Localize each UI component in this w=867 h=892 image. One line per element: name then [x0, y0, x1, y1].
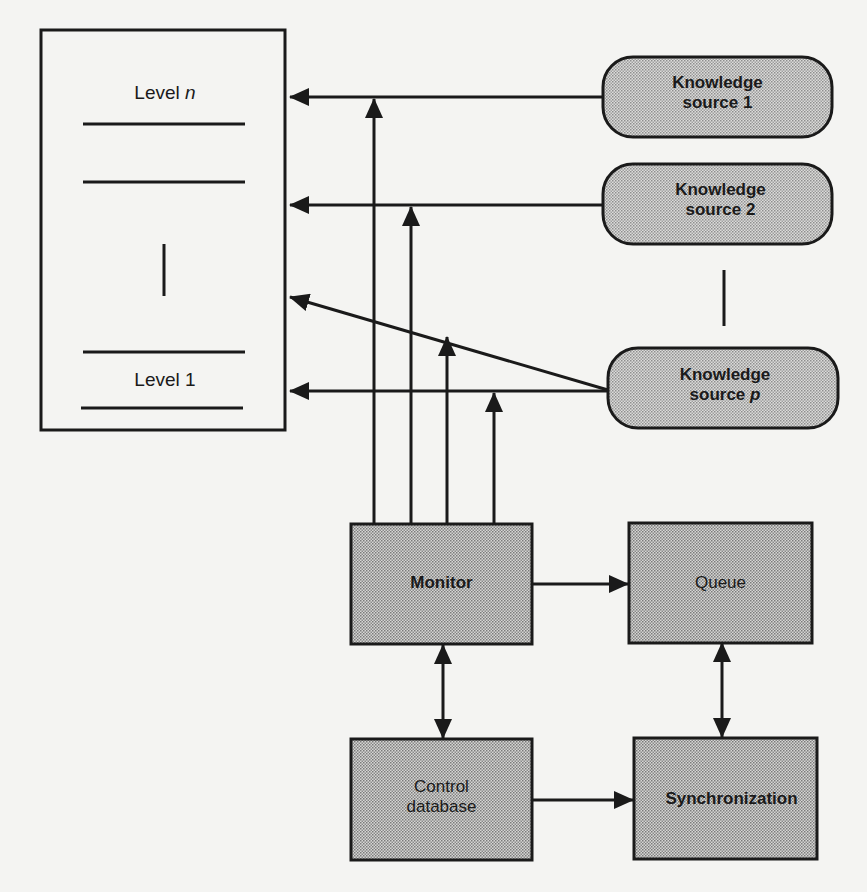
ks1-suffix: 1	[743, 93, 752, 112]
ks2-line2: source 2	[606, 200, 835, 220]
level-1-text: Level 1	[134, 369, 195, 390]
queue-label: Queue	[629, 573, 812, 593]
level-1-label: Level 1	[100, 369, 230, 392]
ks2-line1: Knowledge	[606, 180, 835, 200]
level-n-label: Level n	[100, 82, 230, 105]
ks2-prefix: source	[686, 200, 746, 219]
control-database-label: Control database	[351, 777, 532, 818]
ks-to-blackboard-arrows	[290, 97, 608, 391]
level-n-suffix: n	[185, 82, 196, 103]
control-db-line1: Control	[351, 777, 532, 797]
ksp-prefix: source	[690, 385, 750, 404]
ks1-prefix: source	[683, 93, 743, 112]
synchronization-label: Synchronization	[640, 789, 823, 809]
knowledge-source-1-label: Knowledge source 1	[603, 73, 832, 114]
ks2-suffix: 2	[746, 200, 755, 219]
monitor-label: Monitor	[351, 573, 532, 593]
monitor-to-arrows	[374, 99, 494, 523]
control-db-line2: database	[351, 797, 532, 817]
ksp-suffix: p	[750, 385, 760, 404]
ksp-line1: Knowledge	[610, 365, 840, 385]
ksp-line2: source p	[610, 385, 840, 405]
blackboard-architecture-diagram	[0, 0, 867, 892]
knowledge-source-p-label: Knowledge source p	[610, 365, 840, 406]
ks1-line1: Knowledge	[603, 73, 832, 93]
level-n-prefix: Level	[134, 82, 185, 103]
ks1-line2: source 1	[603, 93, 832, 113]
knowledge-source-2-label: Knowledge source 2	[606, 180, 835, 221]
